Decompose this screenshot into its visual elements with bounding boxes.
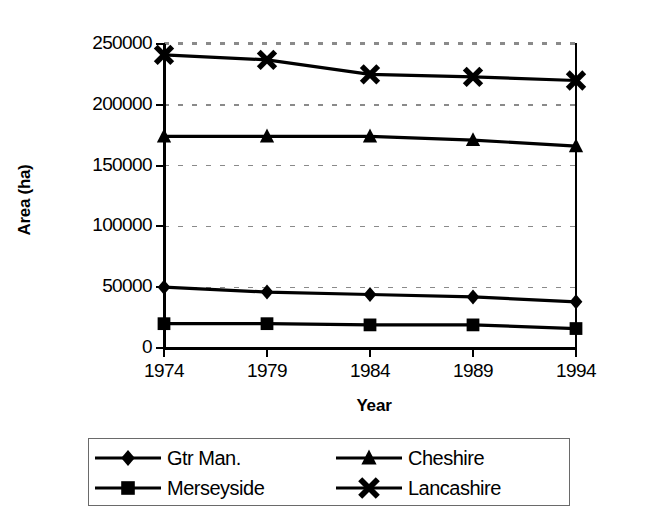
legend-marker-cross-x-icon <box>330 474 408 502</box>
data-point-marker <box>364 287 377 302</box>
x-tick-label: 1974 <box>119 360 209 382</box>
series-lancashire <box>156 47 585 89</box>
data-point-marker <box>570 322 583 335</box>
legend-label: Merseyside <box>167 477 264 500</box>
data-point-marker <box>467 319 480 332</box>
data-point-marker <box>158 317 171 330</box>
data-series <box>156 47 585 335</box>
series-merseyside <box>158 317 583 335</box>
x-tick-label: 1984 <box>325 360 415 382</box>
gridlines <box>164 44 576 287</box>
series-gtr-man <box>158 280 583 310</box>
x-tick-label: 1979 <box>222 360 312 382</box>
data-point-marker <box>158 280 171 295</box>
chart-legend: Gtr Man.CheshireMerseysideLancashire <box>88 438 570 506</box>
legend-item-merseyside[interactable]: Merseyside <box>89 473 330 503</box>
x-tick-label: 1994 <box>531 360 621 382</box>
x-tick-label: 1989 <box>428 360 518 382</box>
legend-marker-diamond-icon <box>89 444 167 472</box>
x-axis-tick-labels: 19741979198419891994 <box>0 360 659 394</box>
legend-label: Lancashire <box>408 477 501 500</box>
data-point-marker <box>261 317 274 330</box>
legend-item-cheshire[interactable]: Cheshire <box>330 443 571 473</box>
legend-label: Cheshire <box>408 447 484 470</box>
data-point-marker <box>467 289 480 304</box>
series-cheshire <box>157 129 583 153</box>
axis-ticks <box>156 44 576 357</box>
legend-row: Gtr Man.Cheshire <box>89 443 571 473</box>
legend-label: Gtr Man. <box>167 447 241 470</box>
data-point-marker <box>570 294 583 309</box>
data-point-marker <box>364 319 377 332</box>
legend-marker-square-icon <box>89 474 167 502</box>
legend-marker-triangle-icon <box>330 444 408 472</box>
legend-item-gtr-man[interactable]: Gtr Man. <box>89 443 330 473</box>
chart-figure: Area (ha) 250000200000150000100000500000… <box>0 0 659 522</box>
plot-frame <box>164 43 577 348</box>
legend-item-lancashire[interactable]: Lancashire <box>330 473 571 503</box>
legend-row: MerseysideLancashire <box>89 473 571 503</box>
x-axis-title: Year <box>158 396 590 416</box>
